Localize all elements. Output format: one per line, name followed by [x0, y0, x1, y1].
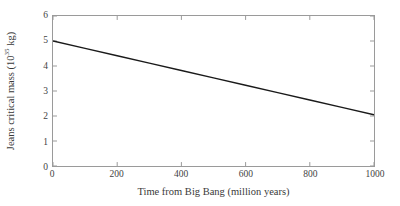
x-axis-tick-labels: 02004006008001000 [52, 169, 375, 183]
y-tick-label: 4 [32, 61, 48, 71]
y-axis-title: Jeans critical mass (1035 kg) [4, 32, 17, 150]
chart-figure: Jeans critical mass (1035 kg) 0123456 02… [0, 0, 400, 206]
x-tick-label: 200 [109, 169, 123, 180]
y-tick-label: 1 [32, 137, 48, 147]
y-tick-label: 6 [32, 10, 48, 20]
x-tick-label: 1000 [366, 169, 385, 180]
axis-ticks [53, 16, 374, 166]
y-axis-title-suffix: kg) [5, 32, 16, 49]
y-axis-title-container: Jeans critical mass (1035 kg) [0, 15, 20, 167]
x-tick-label: 600 [239, 169, 253, 180]
x-tick-label: 800 [303, 169, 317, 180]
y-tick-label: 3 [32, 86, 48, 96]
plot-canvas [53, 16, 374, 166]
plot-area [52, 15, 375, 167]
y-axis-title-exponent: 35 [3, 48, 11, 55]
y-axis-tick-labels: 0123456 [30, 15, 48, 167]
y-axis-title-prefix: Jeans critical mass (10 [5, 55, 16, 150]
data-series-line [53, 41, 374, 115]
x-tick-label: 0 [50, 169, 55, 180]
y-tick-label: 0 [32, 162, 48, 172]
x-tick-label: 400 [174, 169, 188, 180]
y-tick-label: 5 [32, 35, 48, 45]
y-tick-label: 2 [32, 111, 48, 121]
x-axis-title: Time from Big Bang (million years) [52, 185, 375, 198]
